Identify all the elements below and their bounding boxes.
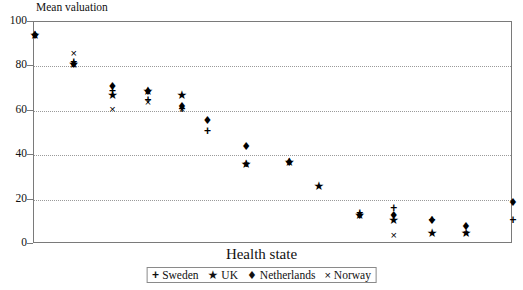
data-point-norway: ×	[32, 30, 38, 41]
data-point-norway: ×	[243, 159, 249, 170]
data-point-netherlands: ♦	[355, 210, 365, 221]
legend-symbol-netherlands-icon: ♦	[247, 270, 257, 281]
y-axis-tick-label: 60	[16, 104, 28, 116]
legend-label: Netherlands	[260, 269, 316, 281]
y-axis-tick-label: 80	[16, 59, 28, 71]
data-point-netherlands: ♦	[202, 114, 212, 125]
data-point-uk: ★	[314, 180, 325, 192]
data-point-sweden: +	[204, 125, 211, 137]
data-point-netherlands: ♦	[427, 214, 437, 225]
y-axis-title: Mean valuation	[36, 1, 108, 13]
data-point-netherlands: ♦	[241, 141, 251, 152]
y-axis-tick-mark	[27, 243, 33, 244]
data-point-norway: ×	[145, 96, 151, 107]
data-point-netherlands: ♦	[69, 59, 79, 70]
gridline	[34, 111, 511, 112]
y-axis-tick-label: 20	[16, 193, 28, 205]
y-axis-tick-label: 100	[10, 15, 27, 27]
legend-label: Norway	[334, 269, 371, 281]
gridline	[34, 200, 511, 201]
data-point-netherlands: ♦	[508, 196, 518, 207]
legend-label: Sweden	[162, 269, 198, 281]
legend-item: ♦Netherlands	[247, 269, 315, 281]
data-point-netherlands: ♦	[108, 81, 118, 92]
data-point-norway: ×	[71, 48, 77, 59]
scatter-chart: Mean valuation 020406080100 ++++++++++++…	[0, 0, 523, 290]
data-point-norway: ×	[179, 103, 185, 114]
legend-item: ★UK	[208, 269, 238, 281]
legend-item: +Sweden	[152, 269, 198, 281]
data-point-netherlands: ♦	[389, 210, 399, 221]
legend-item: ×Norway	[324, 269, 370, 281]
gridline	[34, 155, 511, 156]
data-point-norway: ×	[463, 227, 469, 238]
data-point-norway: ×	[109, 103, 115, 114]
data-point-uk: ★	[427, 227, 438, 239]
chart-legend: +Sweden★UK♦Netherlands×Norway	[146, 267, 377, 283]
data-point-sweden: +	[509, 214, 516, 226]
x-axis-title: Health state	[0, 246, 523, 263]
legend-label: UK	[221, 269, 238, 281]
data-point-norway: ×	[391, 230, 397, 241]
plot-area: ++++++++++++★★★★★★★★★★★★♦♦♦♦♦♦♦♦♦♦♦♦♦×××…	[33, 21, 512, 243]
legend-symbol-norway-icon: ×	[324, 270, 330, 281]
legend-symbol-uk-icon: ★	[208, 269, 219, 281]
legend-symbol-sweden-icon: +	[152, 269, 159, 281]
y-axis-tick-label: 40	[16, 148, 28, 160]
gridline	[34, 66, 511, 67]
data-point-netherlands: ♦	[284, 156, 294, 167]
